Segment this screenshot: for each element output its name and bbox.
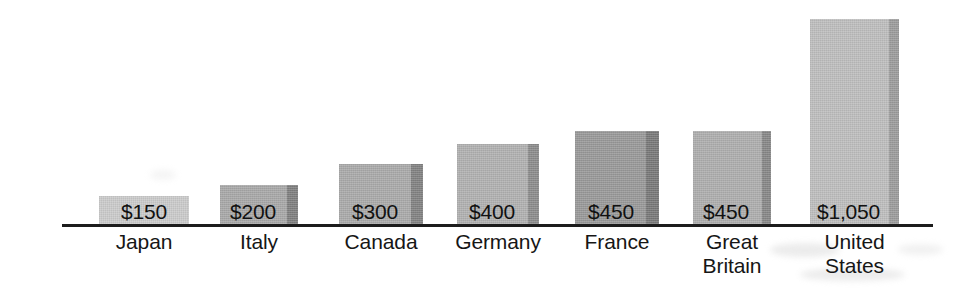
bar-value-label: $300 <box>339 200 411 223</box>
bar-side-shading <box>762 131 771 226</box>
bar-side-shading <box>287 185 298 226</box>
bar: $450 <box>693 131 771 226</box>
bar: $150 <box>99 196 189 226</box>
bar-side-shading <box>411 164 423 226</box>
bar-value-label: $200 <box>220 200 286 223</box>
plot-area: $150$200$300$400$450$450$1,050 JapanItal… <box>0 0 977 295</box>
bar-value-label: $1,050 <box>810 200 887 223</box>
bar-side-shading <box>889 19 899 226</box>
bar: $400 <box>457 144 539 226</box>
bar-chart: $150$200$300$400$450$450$1,050 JapanItal… <box>0 0 977 295</box>
x-axis-baseline <box>62 224 933 227</box>
bar-value-label: $450 <box>693 200 759 223</box>
bar: $450 <box>575 131 659 226</box>
bar-side-shading <box>528 144 539 226</box>
bar: $200 <box>220 185 298 226</box>
bar-face <box>810 19 899 226</box>
bar-side-shading <box>646 131 659 226</box>
bar-value-label: $150 <box>99 200 189 223</box>
bar: $300 <box>339 164 423 226</box>
bar-value-label: $400 <box>457 200 527 223</box>
bar: $1,050 <box>810 19 899 226</box>
bar-value-label: $450 <box>575 200 647 223</box>
category-label: United States <box>770 230 940 278</box>
